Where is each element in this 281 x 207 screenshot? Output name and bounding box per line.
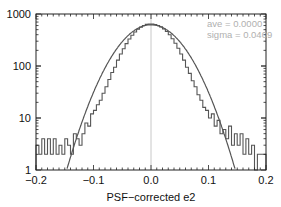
y-tick-10: 10 [19, 112, 31, 124]
histogram-chart: 1000 100 10 1 −0.2 −0.1 0.0 0.1 0.2 PSF−… [0, 0, 281, 207]
annotation-sigma: sigma = 0.0409 [207, 29, 272, 40]
y-tick-100: 100 [13, 60, 31, 72]
x-axis-title: PSF−corrected e2 [107, 191, 196, 203]
x-tick-0.0: 0.0 [143, 174, 158, 186]
x-tick-neg-0.1: −0.1 [83, 174, 105, 186]
annotation-ave: ave = 0.0000 [207, 18, 262, 29]
x-tick-neg-0.2: −0.2 [25, 174, 47, 186]
x-tick-0.1: 0.1 [201, 174, 216, 186]
y-tick-1000: 1000 [7, 8, 31, 20]
x-tick-0.2: 0.2 [258, 174, 273, 186]
